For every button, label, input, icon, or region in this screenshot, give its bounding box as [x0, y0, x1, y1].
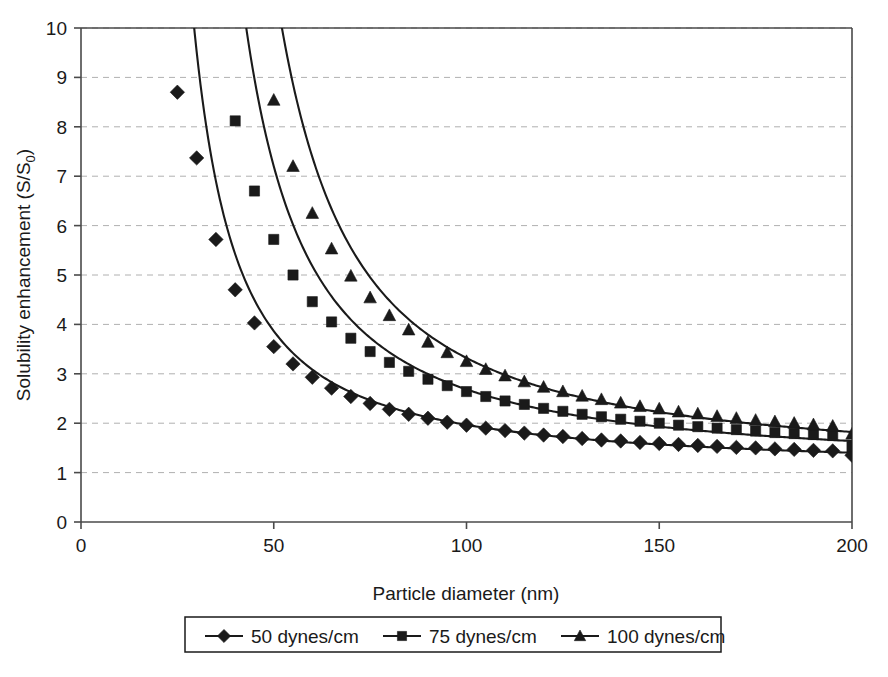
x-tick-label: 150 — [643, 535, 675, 556]
data-point-square — [442, 381, 452, 391]
data-point-square — [365, 346, 375, 356]
data-point-square — [346, 333, 356, 343]
chart-background — [0, 0, 888, 677]
data-point-square — [269, 234, 279, 244]
data-point-square — [616, 414, 626, 424]
x-tick-label: 0 — [76, 535, 87, 556]
legend-label: 100 dynes/cm — [607, 626, 725, 647]
x-tick-label: 50 — [263, 535, 284, 556]
data-point-square — [635, 416, 645, 426]
legend: 50 dynes/cm75 dynes/cm100 dynes/cm — [185, 617, 725, 652]
data-point-square — [808, 429, 818, 439]
y-tick-label: 1 — [56, 463, 67, 484]
data-point-square — [519, 399, 529, 409]
data-point-square — [751, 426, 761, 436]
data-point-square — [384, 357, 394, 367]
data-point-square — [500, 396, 510, 406]
data-point-square — [326, 317, 336, 327]
legend-label: 75 dynes/cm — [429, 626, 537, 647]
data-point-square — [712, 423, 722, 433]
y-tick-label: 10 — [46, 18, 67, 39]
x-axis-title: Particle diameter (nm) — [373, 583, 560, 604]
legend-label: 50 dynes/cm — [251, 626, 359, 647]
data-point-square — [423, 374, 433, 384]
data-point-square — [577, 409, 587, 419]
data-point-square — [461, 387, 471, 397]
y-tick-label: 0 — [56, 512, 67, 533]
y-tick-label: 5 — [56, 265, 67, 286]
data-point-square — [307, 297, 317, 307]
y-tick-label: 4 — [56, 314, 67, 335]
y-tick-label: 6 — [56, 216, 67, 237]
data-point-square — [249, 186, 259, 196]
data-point-square — [558, 406, 568, 416]
data-point-square — [596, 412, 606, 422]
data-point-square — [539, 403, 549, 413]
data-point-square — [770, 428, 780, 438]
data-point-square — [828, 430, 838, 440]
y-tick-label: 2 — [56, 413, 67, 434]
x-tick-label: 100 — [451, 535, 483, 556]
data-point-square — [731, 425, 741, 435]
y-tick-label: 9 — [56, 67, 67, 88]
legend-marker-square — [397, 631, 406, 640]
x-tick-label: 200 — [836, 535, 868, 556]
data-point-square — [693, 422, 703, 432]
y-tick-label: 8 — [56, 117, 67, 138]
solubility-enhancement-chart: 012345678910 050100150200 Particle diame… — [0, 0, 888, 677]
data-point-square — [288, 270, 298, 280]
data-point-square — [230, 116, 240, 126]
data-point-square — [673, 420, 683, 430]
data-point-square — [654, 418, 664, 428]
y-tick-label: 3 — [56, 364, 67, 385]
data-point-square — [789, 428, 799, 438]
data-point-square — [404, 366, 414, 376]
y-tick-label: 7 — [56, 166, 67, 187]
data-point-square — [481, 391, 491, 401]
chart-figure: 012345678910 050100150200 Particle diame… — [0, 0, 888, 677]
